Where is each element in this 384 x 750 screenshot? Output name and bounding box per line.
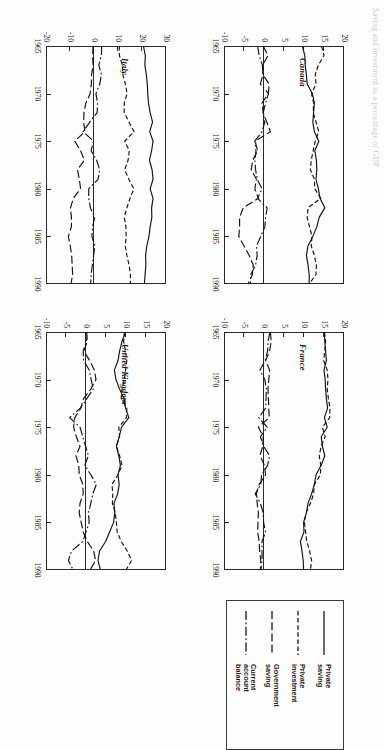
- legend-item-label: Private investment: [290, 664, 305, 703]
- y-axis-tick-label: 20: [340, 34, 349, 42]
- chart-legend: Private savingPrivate investmentGovernme…: [226, 600, 344, 750]
- y-axis-tick-label: 15: [142, 320, 151, 328]
- x-axis-tick-label: 1970: [211, 372, 220, 387]
- y-axis-tick-label: 10: [122, 320, 131, 328]
- legend-item-label: Government saving: [264, 664, 279, 707]
- x-axis-tick-label: 1985: [211, 229, 220, 244]
- legend-item: Private investment: [288, 610, 308, 740]
- x-axis-tick-label: 1970: [33, 372, 42, 387]
- y-axis-tick-label: -10: [220, 32, 229, 42]
- legend-item: Government saving: [262, 610, 282, 740]
- y-axis-tick-label: 15: [320, 320, 329, 328]
- panel-title: Canada: [298, 58, 308, 87]
- x-axis-tick-label: 1970: [33, 86, 42, 101]
- y-axis-tick-label: -10: [42, 318, 51, 328]
- y-axis-tick-label: -10: [220, 318, 229, 328]
- panel-france: France20151050-5-10196519701975198019851…: [224, 332, 344, 570]
- x-axis-tick-label: 1975: [33, 420, 42, 435]
- y-axis-tick-label: 5: [280, 324, 289, 328]
- series-line: [143, 46, 153, 284]
- x-axis-tick-label: 1985: [33, 229, 42, 244]
- x-axis-tick-label: 1965: [211, 324, 220, 339]
- series-layer: [224, 46, 344, 284]
- legend-item: Current account balance: [236, 610, 256, 740]
- x-axis-tick-label: 1975: [33, 134, 42, 149]
- y-axis-tick-label: -20: [42, 32, 51, 42]
- series-layer: [46, 46, 166, 284]
- series-line: [304, 332, 330, 570]
- y-axis-tick-label: 15: [320, 34, 329, 42]
- y-axis-tick-label: 10: [300, 34, 309, 42]
- legend-item-label: Private saving: [316, 664, 331, 688]
- y-axis-tick-label: 0: [260, 324, 269, 328]
- x-axis-tick-label: 1985: [211, 515, 220, 530]
- y-axis-tick-label: 0: [90, 38, 99, 42]
- y-axis-tick-label: -5: [62, 322, 71, 328]
- panel-title: Italy: [120, 58, 130, 75]
- x-axis-tick-label: 1990: [33, 562, 42, 577]
- series-line: [68, 46, 93, 284]
- x-axis-tick-label: 1980: [211, 181, 220, 196]
- panel-italy: Italy3020100-10-201965197019751980198519…: [46, 46, 166, 284]
- legend-line-swatch: [293, 610, 303, 656]
- y-axis-tick-label: 20: [340, 320, 349, 328]
- y-axis-tick-label: 20: [162, 320, 171, 328]
- figure-caption: Saving and investment as a percentage of…: [371, 8, 380, 167]
- x-axis-tick-label: 1975: [211, 420, 220, 435]
- series-line: [256, 332, 271, 570]
- series-line: [239, 46, 271, 284]
- y-axis-tick-label: 20: [138, 34, 147, 42]
- x-axis-tick-label: 1965: [211, 38, 220, 53]
- x-axis-tick-label: 1985: [33, 515, 42, 530]
- x-axis-tick-label: 1970: [211, 86, 220, 101]
- legend-item-label: Current account balance: [235, 664, 258, 692]
- x-axis-tick-label: 1990: [211, 562, 220, 577]
- y-axis-tick-label: -5: [240, 322, 249, 328]
- y-axis-tick-label: -5: [240, 36, 249, 42]
- x-axis-tick-label: 1980: [33, 467, 42, 482]
- y-axis-tick-label: 0: [260, 38, 269, 42]
- y-axis-tick-label: 5: [280, 38, 289, 42]
- y-axis-tick-label: 5: [102, 324, 111, 328]
- series-line: [250, 46, 268, 284]
- legend-line-swatch: [267, 610, 277, 656]
- series-line: [83, 46, 101, 284]
- x-axis-tick-label: 1990: [33, 276, 42, 291]
- x-axis-tick-label: 1990: [211, 276, 220, 291]
- series-line: [68, 332, 96, 570]
- series-line: [307, 46, 324, 284]
- panel-title: France: [298, 344, 308, 371]
- legend-item: Private saving: [314, 610, 334, 740]
- panel-title: United Kingdom: [120, 344, 130, 405]
- y-axis-tick-label: 30: [162, 34, 171, 42]
- panel-united-kingdom: United Kingdom20151050-5-101965197019751…: [46, 332, 166, 570]
- y-axis-tick-label: 10: [300, 320, 309, 328]
- legend-line-swatch: [241, 610, 251, 656]
- x-axis-tick-label: 1975: [211, 134, 220, 149]
- legend-line-swatch: [319, 610, 329, 656]
- series-line: [119, 46, 134, 284]
- x-axis-tick-label: 1965: [33, 38, 42, 53]
- y-axis-tick-label: 0: [82, 324, 91, 328]
- panel-canada: Canada20151050-5-10196519701975198019851…: [224, 46, 344, 284]
- x-axis-tick-label: 1980: [211, 467, 220, 482]
- series-layer: [224, 332, 344, 570]
- y-axis-tick-label: 10: [114, 34, 123, 42]
- series-layer: [46, 332, 166, 570]
- x-axis-tick-label: 1965: [33, 324, 42, 339]
- y-axis-tick-label: -10: [66, 32, 75, 42]
- x-axis-tick-label: 1980: [33, 181, 42, 196]
